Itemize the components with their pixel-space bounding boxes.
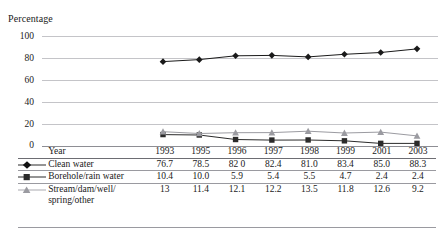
- data-point-0-6: [377, 49, 384, 56]
- data-point-0-0: [160, 58, 167, 65]
- header-col-1998: 1998: [291, 146, 327, 159]
- cell-clean-water-2001: 85.0: [364, 159, 400, 171]
- data-point-1-2: [233, 137, 238, 142]
- data-point-0-2: [232, 53, 239, 60]
- square-icon: [18, 172, 46, 182]
- header-col-2003: 2003: [400, 146, 436, 159]
- plot-area: 100 80 60 40 20 0: [0, 30, 440, 150]
- table-row: Stream/dam/well/ spring/other 13 11.4 12…: [18, 183, 436, 206]
- cell-clean-water-1996: 82 0: [219, 159, 255, 171]
- data-point-1-5: [342, 138, 347, 143]
- cell-borehole-1993: 10.4: [147, 171, 183, 183]
- header-col-2001: 2001: [364, 146, 400, 159]
- data-point-0-5: [341, 51, 348, 58]
- legend-marker-borehole-rain-water: [18, 171, 48, 183]
- cell-stream-1998: 13.5: [291, 183, 327, 206]
- data-point-0-7: [414, 46, 421, 53]
- header-col-1996: 1996: [219, 146, 255, 159]
- header-marker-spacer: [18, 146, 48, 159]
- data-point-0-3: [269, 52, 276, 59]
- cell-clean-water-1998: 81.0: [291, 159, 327, 171]
- data-table: Year 1993 1995 1996 1997 1998 1999 2001 …: [18, 146, 436, 206]
- data-table-wrap: Year 1993 1995 1996 1997 1998 1999 2001 …: [18, 146, 436, 206]
- header-col-1999: 1999: [327, 146, 363, 159]
- triangle-icon: [18, 185, 46, 195]
- header-col-1995: 1995: [183, 146, 219, 159]
- cell-stream-1995: 11.4: [183, 183, 219, 206]
- header-col-1997: 1997: [255, 146, 291, 159]
- cell-borehole-1999: 4.7: [327, 171, 363, 183]
- cell-clean-water-2003: 88.3: [400, 159, 436, 171]
- data-point-1-3: [269, 137, 274, 142]
- cell-stream-1997: 12.2: [255, 183, 291, 206]
- cell-stream-1996: 12.1: [219, 183, 255, 206]
- row-label-stream-dam-well-spring-other: Stream/dam/well/ spring/other: [48, 183, 146, 206]
- cell-borehole-1995: 10.0: [183, 171, 219, 183]
- legend-marker-stream-dam-well-spring-other: [18, 183, 48, 206]
- cell-stream-1993: 13: [147, 183, 183, 206]
- row-label-borehole-rain-water: Borehole/rain water: [48, 171, 146, 183]
- cell-borehole-1997: 5.4: [255, 171, 291, 183]
- data-point-0-1: [196, 56, 203, 63]
- header-col-1993: 1993: [147, 146, 183, 159]
- row-label-clean-water: Clean water: [48, 159, 146, 171]
- legend-marker-clean-water: [18, 159, 48, 171]
- data-point-1-4: [305, 137, 310, 142]
- cell-borehole-1996: 5.9: [219, 171, 255, 183]
- cell-borehole-1998: 5.5: [291, 171, 327, 183]
- cell-clean-water-1997: 82.4: [255, 159, 291, 171]
- data-point-0-4: [305, 54, 312, 61]
- series-canvas: [0, 30, 440, 150]
- row-label-line2: spring/other: [48, 195, 94, 205]
- y-axis-title: Percentage: [8, 13, 53, 24]
- table-row: Borehole/rain water 10.4 10.0 5.9 5.4 5.…: [18, 171, 436, 183]
- table-row: Clean water 76.7 78.5 82 0 82.4 81.0 83.…: [18, 159, 436, 171]
- figure-root: Percentage 100 80 60 40 20 0 Year: [0, 0, 440, 234]
- cell-borehole-2001: 2.4: [364, 171, 400, 183]
- cell-stream-2001: 12.6: [364, 183, 400, 206]
- cell-clean-water-1999: 83.4: [327, 159, 363, 171]
- row-label-line1: Stream/dam/well/: [48, 184, 116, 194]
- cell-clean-water-1993: 76.7: [147, 159, 183, 171]
- cell-stream-1999: 11.8: [327, 183, 363, 206]
- cutoff-title-strip: [0, 0, 440, 7]
- cell-clean-water-1995: 78.5: [183, 159, 219, 171]
- table-header-row: Year 1993 1995 1996 1997 1998 1999 2001 …: [18, 146, 436, 159]
- table-bottom-rule: [18, 227, 436, 228]
- header-year: Year: [48, 146, 146, 159]
- diamond-icon: [18, 160, 46, 170]
- cell-borehole-2003: 2.4: [400, 171, 436, 183]
- cell-stream-2003: 9.2: [400, 183, 436, 206]
